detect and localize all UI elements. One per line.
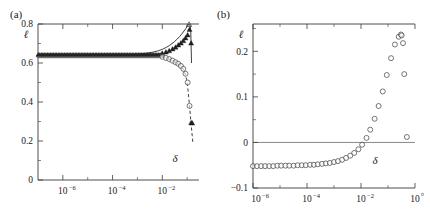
outlier-points: [401, 41, 410, 140]
data-point: [352, 150, 357, 155]
svg-text:−6: −6: [262, 192, 270, 199]
svg-text:−4: −4: [119, 184, 127, 191]
axis-ticks: [38, 24, 187, 180]
lower-branch-theory-line: [162, 57, 193, 143]
svg-text:10: 10: [108, 186, 118, 196]
panel-a: (a) 00.20.40.60.810−610−410−2ℓδ: [0, 0, 215, 217]
flat-branch-band: [36, 53, 164, 58]
svg-text:−4: −4: [313, 192, 321, 199]
panel-b-plot: −0.100.10.210−610−410−210⁰ℓδ: [215, 0, 430, 217]
xtick-label-0: 10−6: [251, 192, 270, 204]
y-axis-label: ℓ: [239, 28, 244, 40]
data-point: [368, 127, 373, 132]
data-point: [364, 135, 369, 140]
data-point: [402, 72, 407, 77]
y-axis-label: ℓ: [24, 28, 29, 40]
data-series: [251, 32, 410, 169]
svg-text:10: 10: [251, 194, 261, 204]
xtick-label-1: 10−4: [302, 192, 321, 204]
svg-text:−2: −2: [367, 192, 374, 199]
svg-text:0.2: 0.2: [236, 47, 248, 57]
data-point: [384, 73, 389, 78]
data-point: [389, 56, 394, 61]
tick-labels: 00.20.40.60.810−610−410−2: [21, 19, 175, 196]
svg-text:−2: −2: [168, 184, 175, 191]
x-axis-label: δ: [172, 152, 178, 164]
svg-text:−6: −6: [69, 184, 77, 191]
tick-labels: −0.100.10.210−610−410−210⁰: [231, 47, 424, 204]
svg-text:0.2: 0.2: [21, 136, 33, 146]
data-point: [392, 42, 397, 47]
xtick-label-0: 10−6: [58, 184, 77, 196]
data-point: [399, 33, 404, 38]
svg-text:−0.1: −0.1: [231, 183, 248, 193]
data-point: [372, 116, 377, 121]
svg-text:⁰: ⁰: [421, 192, 424, 199]
svg-text:10: 10: [356, 194, 366, 204]
data-point: [401, 41, 406, 46]
xtick-label-1: 10−4: [108, 184, 127, 196]
data-point: [356, 147, 361, 152]
data-point: [187, 103, 192, 108]
figure-container: (a) 00.20.40.60.810−610−410−2ℓδ (b) −0.1…: [0, 0, 430, 217]
lower-branch-markers: [160, 54, 195, 125]
xtick-label-3: 10⁰: [410, 192, 424, 204]
data-series: [36, 22, 195, 143]
data-point: [185, 80, 190, 85]
svg-text:0: 0: [243, 138, 248, 148]
data-point: [376, 104, 381, 109]
data-point: [360, 142, 365, 147]
data-point: [183, 71, 188, 76]
upper-branch-markers: [160, 22, 194, 55]
xtick-label-2: 10−2: [356, 192, 374, 204]
svg-text:0.6: 0.6: [21, 58, 33, 68]
svg-text:0.1: 0.1: [236, 92, 248, 102]
svg-text:10: 10: [302, 194, 312, 204]
data-point: [181, 66, 186, 71]
xtick-label-2: 10−2: [158, 184, 176, 196]
svg-text:0.4: 0.4: [21, 97, 33, 107]
data-point: [380, 89, 385, 94]
svg-text:0: 0: [28, 175, 33, 185]
svg-text:10: 10: [58, 186, 68, 196]
data-point: [187, 27, 192, 32]
data-point: [189, 41, 194, 46]
data-point: [185, 32, 190, 37]
svg-text:10: 10: [410, 194, 420, 204]
data-point: [404, 134, 409, 139]
panel-b: (b) −0.100.10.210−610−410−210⁰ℓδ: [215, 0, 430, 217]
svg-text:10: 10: [158, 186, 168, 196]
panel-a-plot: 00.20.40.60.810−610−410−2ℓδ: [0, 0, 215, 217]
x-axis-label: δ: [372, 154, 378, 166]
lyapunov-exponent: [251, 32, 405, 169]
